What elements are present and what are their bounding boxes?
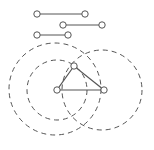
line-segments (34, 11, 105, 38)
node-point (60, 22, 66, 28)
node-point (99, 22, 105, 28)
node-point (71, 63, 77, 69)
node-point (101, 87, 107, 93)
dashed-circles (9, 43, 142, 135)
geometry-diagram (0, 0, 154, 150)
node-point (34, 11, 40, 17)
node-point (65, 32, 71, 38)
node-point (34, 32, 40, 38)
node-point (82, 11, 88, 17)
node-point (54, 87, 60, 93)
